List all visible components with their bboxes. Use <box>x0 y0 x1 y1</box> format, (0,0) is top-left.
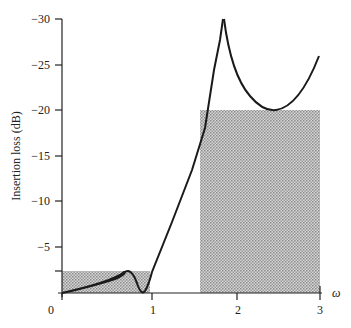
response-curve <box>62 19 223 293</box>
y-ticks <box>55 19 62 271</box>
x-tick-label: 3 <box>317 303 323 317</box>
x-tick-label: 2 <box>235 303 241 317</box>
y-tick-label: −15 <box>31 149 50 163</box>
y-tick-label: −30 <box>31 12 50 26</box>
y-tick-label: −5 <box>37 240 50 254</box>
x-axis-title: ω <box>332 286 340 300</box>
y-axis-title: Insertion loss (dB) <box>9 111 23 200</box>
x-tick-label: 0 <box>48 303 54 317</box>
y-tick-label: −10 <box>31 194 50 208</box>
insertion-loss-chart: −30 −25 −20 −15 −10 −5 Insertion loss (d… <box>0 0 351 328</box>
y-tick-label: −20 <box>31 103 50 117</box>
x-tick-label: 1 <box>150 303 156 317</box>
response-curve-right <box>224 19 319 110</box>
stopband-spec-region <box>200 110 320 293</box>
y-tick-label: −25 <box>31 58 50 72</box>
